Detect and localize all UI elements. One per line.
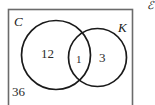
- region-count-c-only: 12: [41, 47, 54, 60]
- set-c-label: C: [14, 15, 23, 28]
- set-k-label: K: [118, 21, 127, 34]
- region-count-k-only: 3: [99, 51, 106, 64]
- universal-set-label: ℰ: [147, 0, 154, 11]
- region-count-intersection: 1: [76, 54, 82, 65]
- venn-diagram: ℰ C K 12 1 3 36: [0, 0, 155, 105]
- region-count-outside: 36: [12, 85, 25, 98]
